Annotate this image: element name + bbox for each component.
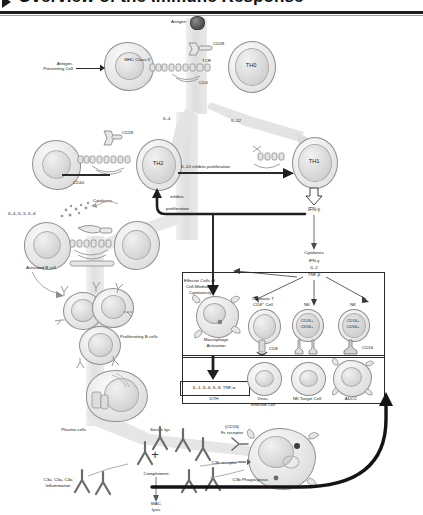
- anaphylatoxins-line2: Inflammation: [45, 483, 70, 488]
- diagram-page: Overview of the Immune Response Antigen …: [0, 0, 423, 515]
- adcc-label: ADCC: [345, 396, 357, 401]
- proliferation-label: proliferation: [166, 206, 189, 211]
- macrophage-nucleus: [203, 303, 226, 324]
- plus-sign: +: [151, 452, 159, 457]
- virus-infected-cell-nucleus: [255, 370, 274, 387]
- complement-label: Complement: [144, 471, 169, 476]
- nk-target-cell-nucleus: [299, 370, 318, 387]
- c3b-receptor-label: C3b receptor: [212, 460, 237, 465]
- activated-b-cell-nucleus: [33, 231, 61, 259]
- tcr-label: TCR: [202, 58, 211, 63]
- effector-label-line3: Cytotoxicity: [189, 290, 211, 295]
- activated-b-cell-label: Activated B cell: [26, 265, 56, 270]
- phagocyte-nucleus: [258, 436, 294, 468]
- proliferating-b-cell-2-nucleus: [101, 295, 126, 319]
- inhibits-label: inhibits: [170, 194, 184, 199]
- mhc-class-ii-label: MHC Class II: [124, 57, 150, 62]
- macrophage-label-line1: Macrophage: [204, 337, 228, 342]
- th0-label: TH0: [246, 63, 257, 68]
- apc-pointer-line: [76, 68, 100, 69]
- ifn-gamma-label: IFN-γ: [308, 207, 320, 212]
- virus-infected-label-line1: Virus-: [257, 396, 268, 401]
- mac-lysis-line1: MAC: [151, 501, 161, 506]
- th2-partner-nucleus: [122, 230, 151, 260]
- plasma-cells-label: Plasma cells: [61, 427, 86, 432]
- nk-label-2: NK: [350, 302, 356, 307]
- proliferating-b-cells-label: Proliferating B cells: [120, 334, 158, 339]
- il10-arrow-line: [178, 172, 283, 174]
- cytotoxic-t-label-line1: Cytotoxic T: [252, 296, 274, 301]
- cd40-line: [62, 174, 110, 176]
- th1-label: TH1: [309, 159, 320, 164]
- effector-label-line2: Cell-Mediated: [186, 284, 213, 289]
- fc-receptor-line2: Fc receptor: [221, 430, 243, 435]
- header-rule-thin: [0, 15, 423, 16]
- fc-receptor-line1: (CD16): [225, 424, 239, 429]
- anaphylatoxins-line1: C3a, C5a, C4a: [43, 477, 72, 482]
- cd28-label-th2: CD28: [122, 130, 133, 135]
- cytokines-label-bcell: Cytokines: [93, 198, 112, 203]
- cascade-item-il2: IL-2: [310, 265, 318, 270]
- cd40-label: CD40: [73, 180, 84, 185]
- virus-infected-label-line2: Infected Cell: [251, 402, 275, 407]
- flow-trunk-main: [186, 18, 207, 114]
- effector-label-line1: Effector Cells of: [184, 278, 215, 283]
- c3b-phagocytosis-label: C3b Phagocytosis: [233, 477, 268, 482]
- nk-label-1: NK: [304, 302, 310, 307]
- page-title: Overview of the Immune Response: [18, 0, 304, 7]
- adcc-target-nucleus: [341, 367, 362, 387]
- header-rule: [0, 11, 423, 14]
- nk-marker-2-line1: CD16+: [347, 318, 360, 323]
- cd8-label: CD8: [269, 346, 278, 351]
- cytokines-cascade-title: Cytokines: [304, 250, 323, 255]
- il4-label: IL-4: [163, 116, 171, 121]
- cytotoxic-t-label-line2: CD8⁺ Cell: [253, 302, 273, 307]
- il10-arrow-label: IL-10 inhibits proliferation: [181, 164, 230, 169]
- nk-marker-1-line2: CD56+: [301, 324, 314, 329]
- nk-marker-1-line1: CD16+: [301, 318, 314, 323]
- serum-igs-label: Serum Igs: [150, 427, 170, 432]
- cd28-label-top: CD28: [213, 41, 224, 46]
- plasma-cell-nucleus: [104, 378, 139, 412]
- macrophage-label-line2: Activation: [206, 343, 225, 348]
- mac-lysis-line2: lysis: [152, 507, 161, 512]
- nk-marker-2-line2: CD56+: [347, 324, 360, 329]
- th2-label: TH2: [153, 161, 164, 166]
- apc-label-line2: Presenting Cell: [43, 66, 73, 71]
- interleukins-label: IL-4, IL-5, IL-6: [8, 211, 36, 216]
- proliferating-b-cell-3-nucleus: [88, 333, 113, 357]
- triangle-right-icon: [2, 0, 11, 8]
- cd16-label: CD16: [362, 345, 373, 350]
- cd4-label: CD4: [199, 80, 208, 85]
- antigen-particle: [190, 16, 205, 30]
- antigen-label: Antigen: [171, 19, 186, 24]
- cytotoxic-t-nucleus: [253, 314, 276, 339]
- cascade-item-ifn: IFN-γ: [309, 258, 320, 263]
- nk-target-cell-label: NK Target Cell: [293, 396, 321, 401]
- il12-label: IL-12: [231, 118, 241, 123]
